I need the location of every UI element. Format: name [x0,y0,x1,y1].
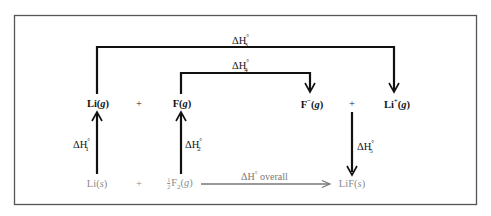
li-solid-formula: Li [87,178,96,189]
born-haber-diagram: ΔH°3 ΔH°4 ΔH°1 ΔH°2 ΔH°5 ΔH° overall Li(… [0,0,491,216]
li-ion-formula: Li [384,99,394,110]
f2-state: g [184,177,189,188]
dh3-index: 3 [244,41,248,49]
dh2-degree: ° [199,137,202,145]
li-ion-charge: + [394,97,398,105]
li-gas-formula: Li [87,98,97,109]
species-li-gas: Li(g) [87,99,109,110]
li-ion-state: g [401,99,406,110]
dh5-degree: ° [371,139,374,147]
dh2-index: 2 [197,145,201,153]
dh1-degree: ° [87,137,90,145]
li-solid-state: s [100,178,104,189]
dh4-degree: ° [246,58,249,66]
dh3-label: ΔH°3 [232,34,253,46]
plus-sign-2: + [349,99,355,110]
f-ion-state: g [315,99,320,110]
lif-formula: LiF [339,178,354,189]
fraction-numerator: 1 [167,177,170,184]
f-gas-formula: F [173,98,179,109]
dh4-index: 4 [244,66,248,74]
species-li-ion: Li+(g) [384,98,410,110]
plus-sign-3: + [136,179,142,190]
species-li-solid: Li(s) [87,179,107,190]
f2-subscript: 2 [177,183,181,191]
f-ion-charge: − [307,97,311,105]
dh4-label: ΔH°4 [232,59,253,71]
f-gas-state: g [183,98,188,109]
li-gas-state: g [100,98,105,109]
species-f-ion: F−(g) [301,98,324,110]
plus-sign-1: + [136,99,142,110]
dh3-degree: ° [246,33,249,41]
half-fraction: 12 [167,177,170,190]
dh2-label: ΔH°2 [185,138,206,150]
dh-overall-degree: ° [255,170,258,178]
dh5-index: 5 [369,147,373,155]
dh-overall-label: ΔH° overall [241,171,288,182]
dh5-label: ΔH°5 [357,140,378,152]
dh-overall-suffix: overall [260,171,288,182]
fraction-denominator: 2 [167,184,170,190]
dh-overall-symbol: ΔH [241,171,255,182]
species-f2-gas: 12F2(g) [167,177,193,191]
dh4-path [181,73,310,94]
dh1-label: ΔH°1 [73,138,94,150]
lif-state: s [358,178,362,189]
dh1-index: 1 [85,145,89,153]
species-f-gas: F(g) [173,99,192,110]
species-lif-solid: LiF(s) [339,179,365,190]
